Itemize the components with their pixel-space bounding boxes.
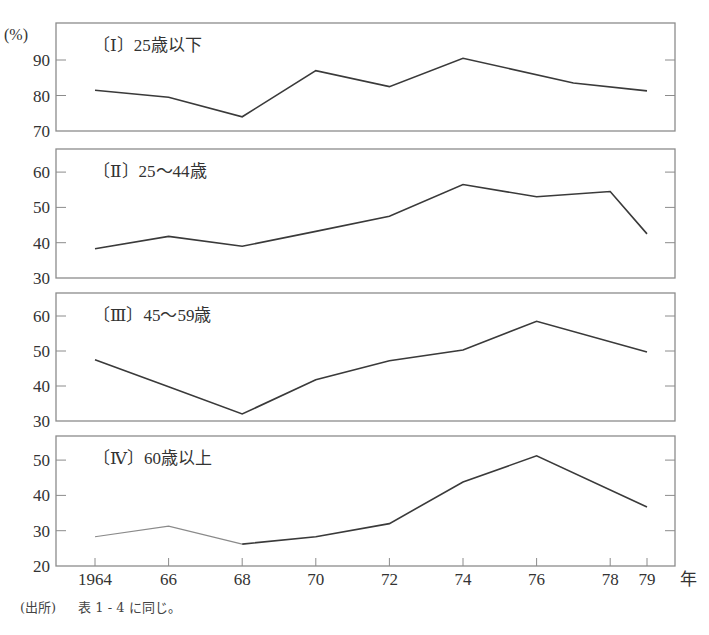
y-tick-label: 30 <box>33 269 50 288</box>
y-unit-label: (%) <box>4 26 28 44</box>
y-tick-label: 20 <box>33 557 50 576</box>
line-chart-panels: (%)708090〔Ⅰ〕25歳以下30405060〔Ⅱ〕25〜44歳304050… <box>0 0 709 635</box>
panel-title: 〔Ⅳ〕60歳以上 <box>93 449 212 468</box>
x-tick-label: 66 <box>160 570 177 589</box>
x-tick-label: 1964 <box>78 570 113 589</box>
x-tick-label: 74 <box>455 570 473 589</box>
source-note: (出所)表 1 - 4 に同じ。 <box>20 597 181 616</box>
y-tick-label: 60 <box>33 163 50 182</box>
x-tick-label: 68 <box>234 570 251 589</box>
y-tick-label: 50 <box>33 342 50 361</box>
y-tick-label: 60 <box>33 307 50 326</box>
x-tick-label: 79 <box>639 570 656 589</box>
x-tick-label: 76 <box>528 570 545 589</box>
x-tick-label: 78 <box>602 570 619 589</box>
panel-title: 〔Ⅲ〕45〜59歳 <box>93 306 211 325</box>
chart-figure: (%)708090〔Ⅰ〕25歳以下30405060〔Ⅱ〕25〜44歳304050… <box>0 0 709 635</box>
x-tick-label: 70 <box>307 570 324 589</box>
series-line <box>95 58 647 117</box>
y-tick-label: 90 <box>33 51 50 70</box>
x-unit-label: 年 <box>680 570 697 589</box>
source-tag: (出所) <box>20 600 56 615</box>
panel-title: 〔Ⅰ〕25歳以下 <box>93 36 202 55</box>
y-tick-label: 30 <box>33 522 50 541</box>
panel-title: 〔Ⅱ〕25〜44歳 <box>93 162 207 181</box>
y-tick-label: 40 <box>33 234 50 253</box>
y-tick-label: 40 <box>33 486 50 505</box>
series-line <box>95 321 647 414</box>
series-line-light <box>95 526 242 544</box>
source-text: 表 1 - 4 に同じ。 <box>78 600 180 615</box>
y-tick-label: 40 <box>33 377 50 396</box>
x-tick-label: 72 <box>381 570 398 589</box>
series-line <box>242 456 647 544</box>
y-tick-label: 80 <box>33 87 50 106</box>
y-tick-label: 70 <box>33 122 50 141</box>
y-tick-label: 50 <box>33 451 50 470</box>
y-tick-label: 50 <box>33 198 50 217</box>
series-line <box>95 184 647 248</box>
y-tick-label: 30 <box>33 412 50 431</box>
